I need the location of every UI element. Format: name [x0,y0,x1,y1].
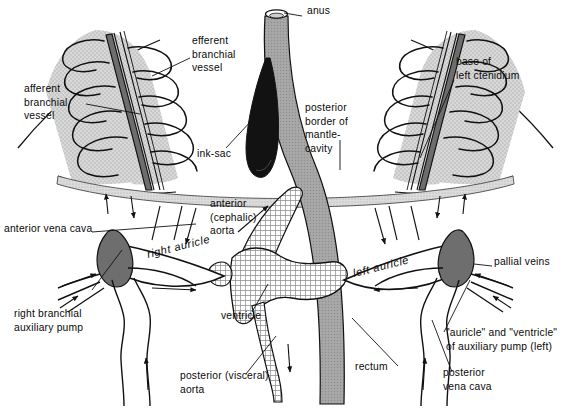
svg-text:rectum: rectum [355,361,388,372]
label-anterior-vena-cava: anterior vena cava [4,223,92,234]
label-rectum: rectum [355,361,388,372]
svg-text:right auricle: right auricle [146,233,212,260]
label-anus: anus [307,5,330,16]
svg-text:pallial veins: pallial veins [494,256,550,267]
svg-text:posteriorvena cava: posteriorvena cava [443,367,492,392]
figure-canvas: anus efferentbranchialvessel afferentbra… [0,0,571,408]
left-ctenidium [374,30,525,193]
label-pallial-veins: pallial veins [494,256,550,267]
label-posterior-vena-cava: posteriorvena cava [443,367,492,392]
left-aux-pump [438,230,474,287]
svg-text:anterior vena cava: anterior vena cava [4,223,92,234]
label-right-branchial-pump: right branchialauxiliary pump [14,308,83,333]
svg-text:anus: anus [307,5,330,16]
right-ctenidium [46,30,197,193]
svg-text:right branchialauxiliary pump: right branchialauxiliary pump [14,308,83,333]
svg-text:ink-sac: ink-sac [197,148,231,159]
svg-text:"auricle" and "ventricle"of au: "auricle" and "ventricle"of auxiliary pu… [446,327,557,352]
label-auricle-ventricle-aux: "auricle" and "ventricle"of auxiliary pu… [446,327,557,352]
label-ventricle: ventricle [221,310,261,321]
label-right-auricle: right auricle [146,233,212,260]
svg-text:posterior (visceral)aorta: posterior (visceral)aorta [180,370,269,395]
ink-sac-body [246,58,278,177]
right-aux-pump [97,230,133,287]
svg-text:efferentbranchialvessel: efferentbranchialvessel [192,35,236,73]
anatomical-diagram: anus efferentbranchialvessel afferentbra… [0,0,571,408]
label-ink-sac: ink-sac [197,148,231,159]
label-efferent-branchial-vessel: efferentbranchialvessel [192,35,236,73]
svg-text:posteriorborder ofmantle-cavit: posteriorborder ofmantle-cavity [305,102,348,154]
label-posterior-border-mantle: posteriorborder ofmantle-cavity [305,102,348,154]
svg-text:ventricle: ventricle [221,310,261,321]
label-posterior-visceral-aorta: posterior (visceral)aorta [180,370,269,395]
